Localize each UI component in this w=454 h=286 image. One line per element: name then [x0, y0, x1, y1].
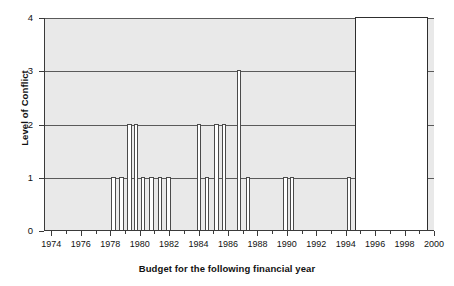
- bar-6: [158, 177, 162, 230]
- x-tick-minor-1987: [243, 231, 244, 234]
- y-tick-label-3: 3: [7, 65, 33, 76]
- x-tick-minor-1985: [213, 231, 214, 234]
- bar-19: [355, 17, 429, 230]
- x-tick-1996: [375, 231, 376, 236]
- x-tick-1992: [316, 231, 317, 236]
- x-tick-1988: [257, 231, 258, 236]
- bar-1: [119, 177, 123, 230]
- bar-14: [283, 177, 287, 230]
- x-tick-minor-1979: [125, 231, 126, 234]
- y-tick-label-0: 0: [7, 225, 33, 236]
- y-axis-title: Level of Conflict: [19, 38, 33, 178]
- x-tick-minor-1995: [360, 231, 361, 234]
- x-tick-minor-1975: [66, 231, 67, 234]
- x-axis-title: Budget for the following financial year: [0, 263, 454, 274]
- plot-area: [44, 18, 434, 231]
- bar-3: [134, 124, 138, 231]
- x-tick-1984: [199, 231, 200, 236]
- x-tick-minor-1983: [184, 231, 185, 234]
- x-tick-1986: [228, 231, 229, 236]
- x-tick-1974: [51, 231, 52, 236]
- bar-15: [290, 177, 294, 230]
- x-tick-1980: [140, 231, 141, 236]
- bar-5: [149, 177, 153, 230]
- y-tick-label-1: 1: [7, 172, 33, 183]
- y-tick-1: [39, 178, 44, 179]
- bar-11: [222, 124, 226, 231]
- y-tick-4: [39, 18, 44, 19]
- bar-13: [246, 177, 250, 230]
- x-tick-minor-1977: [96, 231, 97, 234]
- chart-figure: Level of Conflict 01234 1974197619781980…: [0, 0, 454, 286]
- y-tick-3: [39, 71, 44, 72]
- x-tick-minor-1981: [154, 231, 155, 234]
- y-tick-label-4: 4: [7, 12, 33, 23]
- x-tick-1978: [110, 231, 111, 236]
- bar-9: [205, 177, 209, 230]
- x-tick-minor-1989: [272, 231, 273, 234]
- bar-8: [197, 124, 201, 231]
- x-tick-1982: [169, 231, 170, 236]
- x-tick-minor-1997: [390, 231, 391, 234]
- bar-12: [237, 70, 241, 230]
- x-tick-minor-1993: [331, 231, 332, 234]
- bar-4: [141, 177, 145, 230]
- x-tick-label-2000: 2000: [414, 239, 454, 249]
- x-tick-1990: [287, 231, 288, 236]
- x-tick-2000: [434, 231, 435, 236]
- y-tick-0: [39, 231, 44, 232]
- bar-2: [127, 124, 131, 231]
- x-tick-1976: [81, 231, 82, 236]
- y-tick-label-2: 2: [7, 119, 33, 130]
- bar-7: [166, 177, 170, 230]
- bar-0: [111, 177, 115, 230]
- bar-10: [214, 124, 218, 231]
- bar-16: [347, 177, 351, 230]
- y-tick-2: [39, 125, 44, 126]
- x-tick-minor-1991: [302, 231, 303, 234]
- x-tick-minor-1999: [419, 231, 420, 234]
- x-tick-1994: [346, 231, 347, 236]
- x-tick-1998: [405, 231, 406, 236]
